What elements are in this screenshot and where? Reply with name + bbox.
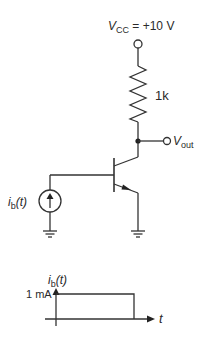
current-arrow-icon (47, 193, 54, 199)
ground-icon (43, 231, 57, 237)
vcc-label: VCC = +10 V (108, 19, 174, 35)
x-axis-label: t (159, 311, 164, 326)
vout-terminal (164, 138, 171, 145)
vout-label: Vout (173, 134, 194, 150)
waveform-plot: ib(t) t 1 mA (26, 273, 164, 326)
vcc-terminal (134, 40, 142, 48)
pulse-waveform (56, 294, 134, 319)
plot-ylabel: ib(t) (48, 273, 67, 289)
ground-icon (131, 231, 145, 237)
source-label: ib(t) (8, 195, 27, 211)
resistor-label: 1k (155, 88, 169, 103)
resistor-1k (130, 66, 146, 122)
transistor-collector (114, 157, 138, 166)
x-axis-arrow-icon (147, 316, 155, 323)
emitter-arrow-icon (122, 185, 132, 191)
circuit-diagram: VCC = +10 V 1k Vout ib(t) ib(t) (0, 0, 205, 351)
y-tick-label: 1 mA (26, 288, 52, 300)
